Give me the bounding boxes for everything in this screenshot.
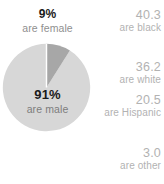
stat-item-black: 40.3 are black bbox=[95, 8, 161, 34]
stat-item-hispanic: 20.5 are Hispanic bbox=[95, 93, 161, 119]
female-percent-label: are female bbox=[0, 22, 95, 34]
female-callout: 9% are female bbox=[0, 8, 95, 34]
stat-label-white: are white bbox=[95, 74, 161, 86]
stat-value-white: 36.2 bbox=[95, 60, 161, 74]
stat-item-white: 36.2 are white bbox=[95, 60, 161, 86]
stat-value-hispanic: 20.5 bbox=[95, 93, 161, 107]
race-stats-panel: 40.3 are black 36.2 are white 20.5 are H… bbox=[95, 0, 164, 184]
pie-chart-graphic bbox=[1, 42, 92, 133]
stat-label-hispanic: are Hispanic bbox=[95, 107, 161, 119]
gender-race-infographic: 9% are female 91% are male 40.3 are blac… bbox=[0, 0, 164, 184]
stat-item-other: 3.0 are other bbox=[95, 146, 161, 172]
gender-pie-panel: 9% are female 91% are male bbox=[0, 0, 95, 184]
female-percent-value: 9% bbox=[0, 8, 95, 22]
pie-chart-svg bbox=[1, 42, 92, 133]
stat-value-black: 40.3 bbox=[95, 8, 161, 22]
stat-value-other: 3.0 bbox=[95, 146, 161, 160]
stat-label-black: are black bbox=[95, 22, 161, 34]
stat-label-other: are other bbox=[95, 160, 161, 172]
